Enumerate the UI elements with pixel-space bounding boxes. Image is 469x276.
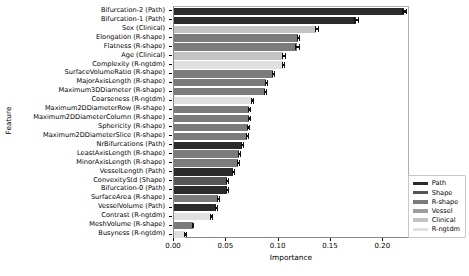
y-axis-tick-mark <box>169 189 172 190</box>
legend-item: R-ngtdm <box>413 225 460 234</box>
legend-label: Vessel <box>432 207 453 215</box>
y-axis-tick-mark <box>169 91 172 92</box>
y-axis-tick-label: Age (Clinical) <box>121 51 165 60</box>
y-axis-tick-mark <box>169 216 172 217</box>
legend-swatch <box>413 200 428 204</box>
y-axis-tick-mark <box>169 171 172 172</box>
error-bar-cap <box>248 133 249 139</box>
y-axis-tick-label: ConvexityStd (Shape) <box>93 176 165 185</box>
y-axis-tick-mark <box>169 73 172 74</box>
error-bar-cap <box>299 35 300 41</box>
error-bar-cap <box>246 133 247 139</box>
bar <box>174 213 211 220</box>
error-bar-cap <box>267 80 268 86</box>
error-bar-cap <box>248 107 249 113</box>
error-bar-cap <box>266 89 267 95</box>
y-axis-tick-label: Contrast (R-ngtdm) <box>101 211 165 220</box>
bar <box>174 168 233 175</box>
y-axis-tick-label: SurfaceVolumeRatio (R-shape) <box>65 68 165 77</box>
legend-item: Vessel <box>413 206 460 215</box>
y-axis-tick-label: Coarseness (R-ngtdm) <box>92 95 165 104</box>
error-bar-cap <box>299 44 300 50</box>
y-axis-tick-mark <box>169 64 172 65</box>
error-bar-cap <box>228 187 229 193</box>
y-axis-tick-mark <box>169 234 172 235</box>
legend-swatch <box>413 182 428 186</box>
bar <box>174 8 404 15</box>
y-axis-tick-mark <box>169 207 172 208</box>
y-axis-tick-label: Maximum2DDiameterRow (R-shape) <box>45 104 165 113</box>
bar <box>174 106 249 113</box>
error-bar-cap <box>238 151 239 157</box>
error-bar-cap <box>282 53 283 59</box>
x-axis-tick-label: 0.20 <box>375 242 391 250</box>
bar <box>174 70 273 77</box>
error-bar-cap <box>265 80 266 86</box>
y-axis-tick-mark <box>169 37 172 38</box>
error-bar-cap <box>250 107 251 113</box>
bar <box>174 159 238 166</box>
x-axis-tick-label: 0.05 <box>218 242 234 250</box>
error-bar-cap <box>358 17 359 23</box>
legend-swatch <box>413 209 428 213</box>
feature-importance-chart: Feature Bifurcation-2 (Path)Bifurcation-… <box>0 0 469 276</box>
bar <box>174 142 242 149</box>
error-bar-cap <box>297 35 298 41</box>
error-bar-cap <box>247 125 248 131</box>
legend-swatch <box>413 191 428 195</box>
y-axis-tick-label: LeastAxisLength (R-shape) <box>77 149 165 158</box>
x-axis-title: Importance <box>173 253 409 262</box>
y-axis-tick-mark <box>169 100 172 101</box>
y-axis-tick-mark <box>169 162 172 163</box>
error-bar-cap <box>243 142 244 148</box>
bar <box>174 222 193 229</box>
error-bar-cap <box>212 214 213 220</box>
y-axis-tick-label: Sex (Clinical) <box>122 24 165 33</box>
error-bar-cap <box>406 9 407 15</box>
bar <box>174 43 297 50</box>
bar <box>174 34 298 41</box>
error-bar-cap <box>251 98 252 104</box>
y-axis-tick-label: MinorAxisLength (R-shape) <box>76 158 165 167</box>
error-bar-cap <box>226 178 227 184</box>
y-axis-tick-mark <box>169 118 172 119</box>
error-bar-cap <box>248 116 249 122</box>
legend-swatch <box>413 218 428 222</box>
bar <box>174 133 247 140</box>
y-axis-tick-label: SurfaceArea (R-shape) <box>91 193 165 202</box>
x-axis-tick-mark <box>173 238 174 241</box>
bar <box>174 26 316 33</box>
error-bar-cap <box>274 71 275 77</box>
bar <box>174 204 216 211</box>
y-axis-tick-mark <box>169 82 172 83</box>
y-axis-tick-labels: Bifurcation-2 (Path)Bifurcation-1 (Path)… <box>0 6 170 238</box>
y-axis-tick-mark <box>169 19 172 20</box>
bar <box>174 124 248 131</box>
legend-item: Path <box>413 179 460 188</box>
legend-swatch <box>413 228 428 232</box>
y-axis-tick-mark <box>169 180 172 181</box>
error-bar-cap <box>295 44 296 50</box>
error-bar-cap <box>354 17 355 23</box>
x-axis-tick-mark <box>225 238 226 241</box>
error-bar-cap <box>402 9 403 15</box>
error-bar-cap <box>250 116 251 122</box>
error-bar-cap <box>193 223 194 229</box>
x-axis-tick-label: 0.15 <box>322 242 338 250</box>
y-axis-tick-label: Bifurcation-0 (Path) <box>101 184 165 193</box>
y-axis-tick-mark <box>169 144 172 145</box>
y-axis-tick-mark <box>169 10 172 11</box>
x-axis-tick-mark <box>330 238 331 241</box>
y-axis-tick-label: Sphericity (R-shape) <box>98 122 165 131</box>
error-bar-cap <box>232 169 233 175</box>
bar <box>174 115 249 122</box>
legend-item: Shape <box>413 188 460 197</box>
y-axis-tick-label: Maximum2DDiameterColumn (R-shape) <box>33 113 165 122</box>
error-bar-cap <box>315 26 316 32</box>
y-axis-tick-mark <box>169 46 172 47</box>
bar <box>174 61 283 68</box>
y-axis-tick-label: NrBifurcations (Path) <box>96 140 165 149</box>
error-bar-cap <box>249 125 250 131</box>
error-bar-cap <box>241 142 242 148</box>
legend: PathShapeR-shapeVesselClinicalR-ngtdm <box>408 175 466 238</box>
